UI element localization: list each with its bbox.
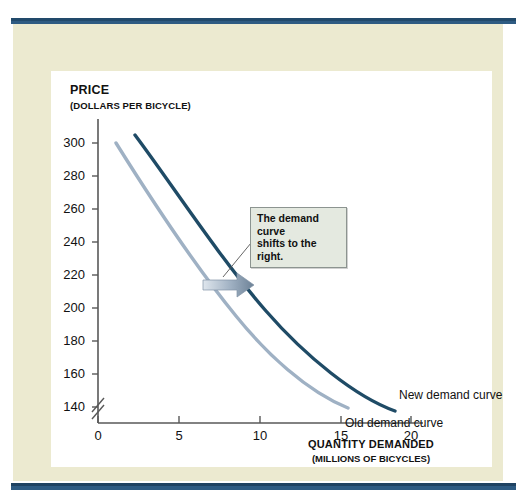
top-rule-shadow <box>11 18 516 21</box>
x-tick-label: 15 <box>326 428 356 443</box>
chart-card: PRICE (DOLLARS PER BICYCLE) QUANTITY DEM… <box>51 71 492 467</box>
y-tick-label: 260 <box>51 201 85 216</box>
y-tick-label: 200 <box>51 300 85 315</box>
plot-svg <box>51 71 492 467</box>
series-label-new-demand-curve: New demand curve <box>399 388 502 402</box>
y-tick-label: 240 <box>51 234 85 249</box>
annotation-callout: The demand curve shifts to the right. <box>250 207 347 268</box>
y-tick-label: 300 <box>51 135 85 150</box>
annotation-line-1: The demand curve <box>257 212 341 237</box>
y-tick-label: 280 <box>51 168 85 183</box>
y-tick-marks <box>92 143 98 407</box>
x-tick-label: 5 <box>164 428 194 443</box>
bottom-rule-shadow <box>11 483 516 486</box>
figure-root: PRICE (DOLLARS PER BICYCLE) QUANTITY DEM… <box>0 0 516 500</box>
annotation-line-2: shifts to the right. <box>257 237 341 262</box>
series-new-demand-curve <box>135 135 395 411</box>
series-label-old-demand-curve: Old demand curve <box>345 416 443 430</box>
y-tick-label: 180 <box>51 333 85 348</box>
x-tick-label: 10 <box>245 428 275 443</box>
cream-panel: PRICE (DOLLARS PER BICYCLE) QUANTITY DEM… <box>13 24 503 481</box>
y-tick-label: 160 <box>51 366 85 381</box>
series-old-demand-curve <box>116 143 348 408</box>
x-tick-label: 20 <box>396 428 426 443</box>
y-tick-label: 220 <box>51 267 85 282</box>
x-tick-label: 0 <box>83 428 113 443</box>
y-tick-label: 140 <box>51 399 85 414</box>
shift-arrow-icon <box>203 273 254 297</box>
